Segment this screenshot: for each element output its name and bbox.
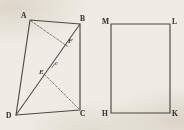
point-label-f: F — [68, 38, 73, 45]
vertex-label-c: C — [80, 110, 85, 118]
vertex-label-a: A — [21, 12, 26, 20]
vertex-label-b: B — [80, 15, 85, 23]
right-figure-group — [111, 24, 170, 113]
figure-page: A B C D F E e M L K H — [0, 0, 184, 130]
dashed-segment-af — [31, 21, 67, 46]
segment-label-e-lower: e — [55, 60, 58, 67]
left-figure-group — [16, 20, 80, 115]
vertex-label-k: K — [172, 110, 178, 118]
dashed-segment-ce — [44, 74, 79, 109]
vertex-label-h: H — [102, 110, 108, 118]
geometry-figure-svg — [0, 0, 184, 130]
vertex-label-d: D — [6, 112, 11, 120]
point-f-marker — [66, 45, 67, 46]
vertex-label-m: M — [102, 18, 109, 26]
point-label-e: E — [39, 69, 44, 76]
vertex-label-l: L — [172, 18, 177, 26]
rect-mlkh-outline — [111, 24, 170, 113]
